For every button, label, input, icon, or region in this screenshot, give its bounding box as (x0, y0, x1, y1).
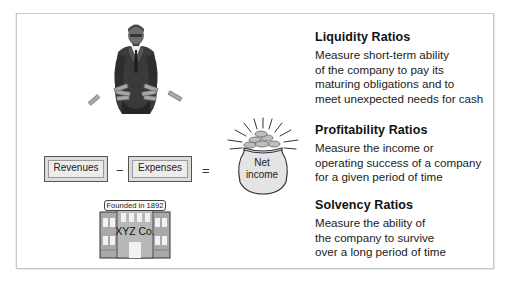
desc-line: Measure the income or (315, 141, 495, 156)
net-income-label: Net income (238, 157, 286, 181)
liquidity-ratios-heading: Liquidity Ratios (315, 29, 495, 45)
desc-line: Measure short-term ability (315, 48, 495, 63)
net-income-line1: Net (238, 157, 286, 169)
minus-sign: − (116, 164, 124, 177)
expenses-bill: Expenses (128, 156, 192, 182)
net-income-line2: income (238, 169, 286, 181)
desc-line: operating success of a company (315, 156, 495, 171)
liquidity-ratios-section: Liquidity Ratios Measure short-term abil… (315, 29, 495, 106)
desc-line: of the company to pay its (315, 63, 495, 78)
revenues-label: Revenues (45, 162, 107, 173)
equals-sign: = (202, 164, 210, 177)
expenses-label: Expenses (129, 162, 191, 173)
revenues-bill: Revenues (44, 156, 108, 182)
profitability-ratios-section: Profitability Ratios Measure the income … (315, 122, 495, 185)
liquidity-ratios-description: Measure short-term ability of the compan… (315, 48, 495, 106)
founded-sign: Founded in 1892 (104, 200, 166, 211)
desc-line: Measure the ability of (315, 216, 495, 231)
profitability-ratios-description: Measure the income or operating success … (315, 141, 495, 185)
company-name: XYZ Co. (100, 225, 170, 237)
profitability-ratios-heading: Profitability Ratios (315, 122, 495, 138)
desc-line: the company to survive (315, 231, 495, 246)
solvency-ratios-section: Solvency Ratios Measure the ability of t… (315, 197, 495, 260)
solvency-ratios-description: Measure the ability of the company to su… (315, 216, 495, 260)
desc-line: over a long period of time (315, 245, 495, 260)
desc-line: maturing obligations and to (315, 77, 495, 92)
businessman-dropping-money-icon (84, 22, 189, 118)
desc-line: for a given period of time (315, 170, 495, 185)
money-bag-icon (222, 114, 304, 196)
solvency-ratios-heading: Solvency Ratios (315, 197, 495, 213)
desc-line: meet unexpected needs for cash (315, 92, 495, 107)
